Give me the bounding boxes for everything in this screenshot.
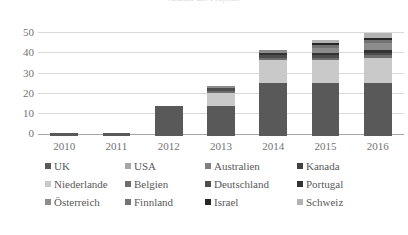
x-tick-2011: 2011 [94,136,139,156]
legend-swatch-icon [45,181,51,187]
legend-swatch-icon [125,199,131,205]
bar-group-2011[interactable] [94,8,139,136]
legend-swatch-icon [297,163,303,169]
bar-segment-2014-niederlande[interactable] [259,60,287,83]
legend-item-portugal[interactable]: Portugal [297,178,363,190]
y-tick-40: 40 [23,47,34,58]
bar-segment-2013-uk[interactable] [207,106,235,136]
bar-series-container [38,8,404,136]
x-tick-2012: 2012 [146,136,191,156]
bar-segment-2015-niederlande[interactable] [312,60,340,83]
legend-swatch-icon [45,199,51,205]
bar-group-2010[interactable] [42,8,87,136]
stacked-bar-chart: Anzahl der Projekte 50 40 30 20 10 0 201… [0,0,408,235]
y-tick-30: 30 [23,68,34,79]
legend-swatch-icon [45,163,51,169]
legend-row-2: NiederlandeBelgienDeutschlandPortugal [0,175,408,193]
y-tick-50: 50 [23,27,34,38]
legend-swatch-icon [205,181,211,187]
bar-group-2013[interactable] [199,8,244,136]
bar-stack-2012[interactable] [155,106,183,136]
bar-segment-2012-uk[interactable] [155,106,183,136]
bar-stack-2013[interactable] [207,86,235,136]
legend-item-österreich[interactable]: Österreich [45,196,119,208]
bar-stack-2016[interactable] [364,33,392,136]
legend-label: USA [134,160,156,172]
bar-group-2014[interactable] [251,8,296,136]
y-axis: 50 40 30 20 10 0 [0,8,38,136]
plot-area: 50 40 30 20 10 0 [0,8,408,136]
x-tick-2016: 2016 [356,136,401,156]
y-tick-10: 10 [23,108,34,119]
legend-item-deutschland[interactable]: Deutschland [205,178,291,190]
x-tick-2010: 2010 [42,136,87,156]
plot-canvas [38,8,404,136]
x-tick-2013: 2013 [199,136,244,156]
legend-item-finnland[interactable]: Finnland [125,196,199,208]
legend-item-australien[interactable]: Australien [205,160,291,172]
bar-segment-2016-niederlande[interactable] [364,58,392,83]
legend-swatch-icon [205,199,211,205]
legend-item-schweiz[interactable]: Schweiz [297,196,363,208]
legend-swatch-icon [297,199,303,205]
bar-segment-2014-uk[interactable] [259,83,287,136]
x-axis: 2010 2011 2012 2013 2014 2015 2016 [38,136,404,156]
legend-label: Finnland [134,196,173,208]
legend-row-1: UKUSAAustralienKanada [0,157,408,175]
x-tick-2015: 2015 [303,136,348,156]
legend-item-kanada[interactable]: Kanada [297,160,363,172]
y-tick-0: 0 [29,128,35,139]
y-tick-20: 20 [23,88,34,99]
bar-group-2015[interactable] [303,8,348,136]
legend-row-3: ÖsterreichFinnlandIsraelSchweiz [0,193,408,211]
legend-label: Belgien [134,178,168,190]
bar-group-2012[interactable] [146,8,191,136]
legend-swatch-icon [297,181,303,187]
legend-item-niederlande[interactable]: Niederlande [45,178,119,190]
chart-title-clipped: Anzahl der Projekte [0,0,408,3]
legend-label: UK [54,160,70,172]
chart-legend: UKUSAAustralienKanadaNiederlandeBelgienD… [0,157,408,217]
bar-segment-2016-österreich[interactable] [364,43,392,51]
legend-swatch-icon [125,163,131,169]
legend-label: Kanada [306,160,340,172]
legend-item-belgien[interactable]: Belgien [125,178,199,190]
legend-label: Österreich [54,196,100,208]
legend-label: Schweiz [306,196,343,208]
legend-item-uk[interactable]: UK [45,160,119,172]
legend-swatch-icon [205,163,211,169]
bar-stack-2014[interactable] [259,50,287,136]
x-tick-2014: 2014 [251,136,296,156]
bar-stack-2015[interactable] [312,40,340,136]
bar-segment-2016-uk[interactable] [364,83,392,136]
legend-label: Portugal [306,178,343,190]
legend-label: Australien [214,160,260,172]
legend-label: Deutschland [214,178,269,190]
bar-group-2016[interactable] [356,8,401,136]
legend-swatch-icon [125,181,131,187]
legend-label: Niederlande [54,178,108,190]
bar-segment-2015-uk[interactable] [312,83,340,136]
chart-title-text: Anzahl der Projekte [0,0,408,3]
legend-label: Israel [214,196,238,208]
bar-segment-2013-niederlande[interactable] [207,93,235,106]
legend-item-usa[interactable]: USA [125,160,199,172]
legend-item-israel[interactable]: Israel [205,196,291,208]
